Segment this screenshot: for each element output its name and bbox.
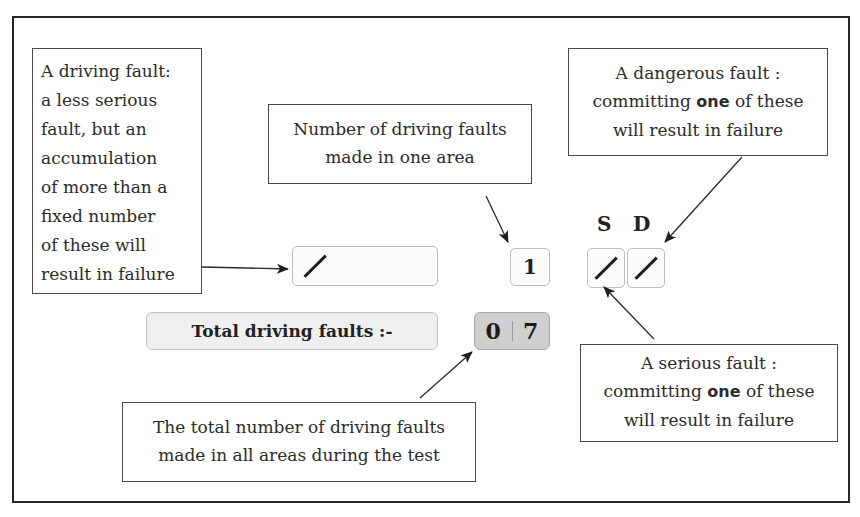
fault-mark-slash-icon: [595, 257, 618, 280]
area-fault-count: 1: [523, 255, 537, 279]
text-fragment: of these: [741, 381, 815, 401]
text-fragment: committing: [604, 381, 708, 401]
callout-line: will result in failure: [569, 116, 827, 144]
total-digit-tens: 0: [475, 313, 512, 349]
callout-line: fixed number: [41, 202, 195, 231]
callout-line: committing one of these: [569, 87, 827, 116]
callout-line: of these will: [41, 231, 195, 260]
dangerous-column-label: D: [633, 212, 650, 236]
total-driving-faults-label: Total driving faults :-: [146, 312, 438, 350]
callout-total-faults: The total number of driving faults made …: [122, 402, 476, 482]
serious-column-label: S: [597, 212, 611, 236]
callout-line: accumulation: [41, 144, 195, 173]
fault-mark-slash-icon: [304, 255, 327, 278]
area-fault-count-box: 1: [510, 248, 550, 286]
callout-line: Number of driving faults: [269, 115, 531, 143]
text-fragment: of these: [730, 91, 804, 111]
callout-line: made in one area: [269, 143, 531, 171]
callout-line: of more than a: [41, 173, 195, 202]
dangerous-fault-box: [627, 248, 665, 288]
callout-line: a less serious: [41, 86, 195, 115]
callout-serious-fault: A serious fault : committing one of thes…: [580, 344, 838, 442]
driving-fault-box: [292, 246, 438, 286]
fault-mark-slash-icon: [635, 257, 658, 280]
callout-faults-in-area: Number of driving faults made in one are…: [268, 104, 532, 184]
callout-driving-fault: A driving fault: a less serious fault, b…: [32, 48, 202, 294]
emphasis-one: one: [707, 382, 740, 401]
callout-line: will result in failure: [581, 406, 837, 434]
callout-line: made in all areas during the test: [123, 441, 475, 469]
serious-fault-box: [587, 248, 625, 288]
callout-line: committing one of these: [581, 377, 837, 406]
callout-line: result in failure: [41, 260, 195, 289]
callout-line: fault, but an: [41, 115, 195, 144]
text-fragment: committing: [593, 91, 697, 111]
total-driving-faults-value: 0 7: [474, 312, 550, 350]
callout-dangerous-fault: A dangerous fault : committing one of th…: [568, 48, 828, 156]
total-digit-units: 7: [513, 313, 550, 349]
emphasis-one: one: [696, 92, 729, 111]
callout-line: A driving fault:: [41, 57, 195, 86]
callout-line: A dangerous fault :: [569, 59, 827, 87]
callout-line: The total number of driving faults: [123, 413, 475, 441]
callout-line: A serious fault :: [581, 349, 837, 377]
